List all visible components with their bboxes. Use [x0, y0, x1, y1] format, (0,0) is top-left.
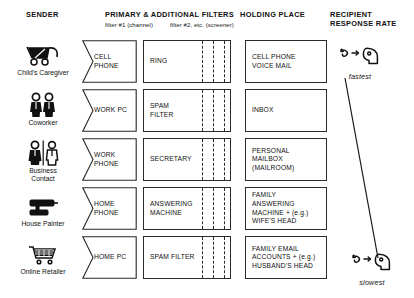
screener-divider [213, 90, 214, 131]
holding-box-3[interactable]: PERSONAL MAILBOX (MAILROOM) [245, 138, 327, 181]
screener-divider [202, 90, 203, 131]
filter1-label-5: HOME PC [82, 253, 129, 262]
response-slowest-label: slowest [342, 278, 402, 287]
two-people-icon [0, 92, 86, 118]
filter2-box-4[interactable]: ANSWERING MACHINE [143, 187, 231, 230]
sender-label-5: Online Retailer [0, 268, 86, 276]
sender-label-1: Child's Caregiver [0, 69, 86, 77]
column-header-filters: PRIMARY & ADDITIONAL FILTERS [105, 10, 255, 19]
holding-label-5: FAMILY EMAIL ACCOUNTS + (e.g.) HUSBAND'S… [246, 245, 318, 271]
filter1-box-2[interactable]: WORK PC [82, 89, 137, 132]
response-fastest-label: fastest [330, 72, 390, 81]
head-with-arrow-icon [350, 252, 394, 274]
sender-label-4: House Painter [0, 220, 86, 228]
column-header-response-line1: RECIPIENT [330, 10, 410, 19]
sender-cell-4: House Painter [0, 193, 86, 228]
screener-divider [202, 139, 203, 180]
shopping-cart-icon [0, 241, 86, 267]
stroller-icon [0, 42, 86, 68]
filter1-label-4: HOME PHONE [82, 200, 122, 217]
screener-divider [202, 41, 203, 82]
filter2-label-4: ANSWERING MACHINE [144, 200, 196, 217]
holding-label-2: INBOX [246, 106, 277, 115]
holding-box-4[interactable]: FAMILY ANSWERING MACHINE + (e.g.) WIFE'S… [245, 187, 327, 230]
screener-divider [224, 139, 225, 180]
screener-divider [202, 188, 203, 229]
screener-divider [224, 188, 225, 229]
holding-label-3: PERSONAL MAILBOX (MAILROOM) [246, 147, 297, 173]
sender-label-3: Business Contact [0, 167, 86, 183]
screener-divider [224, 41, 225, 82]
sender-cell-5: Online Retailer [0, 241, 86, 276]
response-slowest: slowest [342, 252, 402, 287]
column-header-sender: SENDER [26, 10, 106, 19]
filter2-box-3[interactable]: SECRETARY [143, 138, 231, 181]
business-contact-icon [0, 140, 86, 166]
filter1-box-4[interactable]: HOME PHONE [82, 187, 137, 230]
filter1-box-5[interactable]: HOME PC [82, 236, 137, 279]
holding-box-2[interactable]: INBOX [245, 89, 327, 132]
filter1-label-3: WORK PHONE [82, 151, 122, 168]
sender-label-2: Coworker [0, 119, 86, 127]
filter1-box-3[interactable]: WORK PHONE [82, 138, 137, 181]
head-with-arrow-icon [338, 46, 382, 68]
filter1-label-2: WORK PC [82, 106, 130, 115]
filter2-box-2[interactable]: SPAM FILTER [143, 89, 231, 132]
holding-box-5[interactable]: FAMILY EMAIL ACCOUNTS + (e.g.) HUSBAND'S… [245, 236, 327, 279]
column-subheader-filter1: filter #1 (channel) [105, 21, 175, 29]
screener-divider [224, 90, 225, 131]
filter2-label-3: SECRETARY [144, 155, 195, 164]
response-fastest: fastest [330, 46, 390, 81]
holding-label-1: CELL PHONE VOICE MAIL [246, 53, 299, 70]
column-subheader-filter2: filter #2, etc. (screener) [170, 21, 265, 29]
sender-cell-1: Child's Caregiver [0, 42, 86, 77]
filter2-label-2: SPAM FILTER [144, 102, 176, 119]
filter1-label-1: CELL PHONE [82, 53, 122, 70]
filter1-box-1[interactable]: CELL PHONE [82, 40, 137, 83]
screener-divider [213, 188, 214, 229]
screener-divider [202, 237, 203, 278]
screener-divider [213, 237, 214, 278]
screener-divider [213, 41, 214, 82]
sender-cell-2: Coworker [0, 92, 86, 127]
diagram-canvas: SENDER PRIMARY & ADDITIONAL FILTERS filt… [0, 0, 414, 298]
filter2-label-1: RING [144, 57, 170, 66]
column-header-holding-place: HOLDING PLACE [240, 10, 330, 19]
paint-roller-icon [0, 193, 86, 219]
column-header-response-line2: RESPONSE RATE [330, 19, 410, 28]
holding-label-4: FAMILY ANSWERING MACHINE + (e.g.) WIFE'S… [246, 191, 311, 225]
holding-box-1[interactable]: CELL PHONE VOICE MAIL [245, 40, 327, 83]
sender-cell-3: Business Contact [0, 140, 86, 183]
screener-divider [224, 237, 225, 278]
filter2-box-1[interactable]: RING [143, 40, 231, 83]
screener-divider [213, 139, 214, 180]
filter2-label-5: SPAM FILTER [144, 253, 198, 262]
filter2-box-5[interactable]: SPAM FILTER [143, 236, 231, 279]
